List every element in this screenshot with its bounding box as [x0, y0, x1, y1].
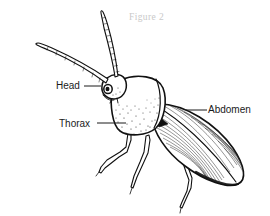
- label-thorax-text: Thorax: [59, 118, 90, 129]
- antenna-left: [36, 43, 108, 83]
- beetle-illustration: Figure 2: [0, 0, 270, 216]
- abdomen-part: [152, 103, 245, 194]
- pupil: [106, 87, 110, 92]
- label-abdomen-text: Abdomen: [208, 104, 251, 115]
- leg-front: [96, 133, 131, 176]
- label-abdomen: Abdomen: [186, 104, 251, 115]
- label-head: Head: [56, 80, 101, 91]
- figure-caption: Figure 2: [129, 12, 164, 22]
- antenna-right: [101, 11, 119, 77]
- leg-middle: [130, 135, 150, 194]
- label-head-text: Head: [56, 80, 80, 91]
- figure-container: Figure 2: [0, 0, 270, 216]
